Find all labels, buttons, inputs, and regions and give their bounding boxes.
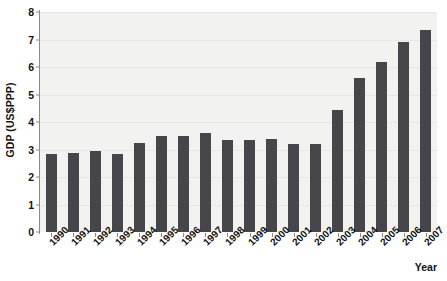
gridline: [40, 12, 437, 13]
y-tick-label: 7: [28, 34, 34, 46]
x-axis-title: Year: [415, 261, 437, 273]
y-axis-title-text: GDP (US$PPP): [4, 82, 16, 157]
bar-chart: GDP (US$PPP) 012345678 Year 199019911992…: [0, 0, 447, 281]
bar: [376, 62, 387, 233]
bar: [68, 153, 79, 232]
bar: [266, 139, 277, 233]
y-tick-label: 4: [28, 116, 34, 128]
y-tick-mark: [36, 149, 40, 150]
bar: [332, 110, 343, 232]
y-tick-mark: [36, 39, 40, 40]
y-tick-mark: [36, 232, 40, 233]
y-tick-mark: [36, 12, 40, 13]
bar: [420, 30, 431, 232]
y-tick-mark: [36, 94, 40, 95]
bar: [354, 78, 365, 232]
bar: [398, 42, 409, 232]
bar: [134, 143, 145, 232]
bar: [222, 140, 233, 232]
y-tick-label: 0: [28, 226, 34, 238]
y-tick-mark: [36, 122, 40, 123]
bar: [90, 151, 101, 232]
bar: [112, 154, 123, 232]
y-tick-label: 1: [28, 199, 34, 211]
y-tick-label: 2: [28, 171, 34, 183]
bar: [200, 133, 211, 232]
gridline: [40, 40, 437, 41]
y-tick-label: 3: [28, 144, 34, 156]
y-tick-label: 6: [28, 61, 34, 73]
bar: [310, 144, 321, 232]
bar: [178, 136, 189, 232]
y-tick-mark: [36, 177, 40, 178]
bar: [288, 144, 299, 232]
y-tick-labels: 012345678: [20, 6, 36, 238]
y-tick-label: 8: [28, 6, 34, 18]
bar: [46, 154, 57, 232]
bar: [156, 136, 167, 232]
plot-area: [40, 12, 437, 232]
y-axis-title: GDP (US$PPP): [0, 0, 20, 240]
y-tick-mark: [36, 204, 40, 205]
y-tick-mark: [36, 67, 40, 68]
y-tick-label: 5: [28, 89, 34, 101]
bar: [244, 140, 255, 232]
